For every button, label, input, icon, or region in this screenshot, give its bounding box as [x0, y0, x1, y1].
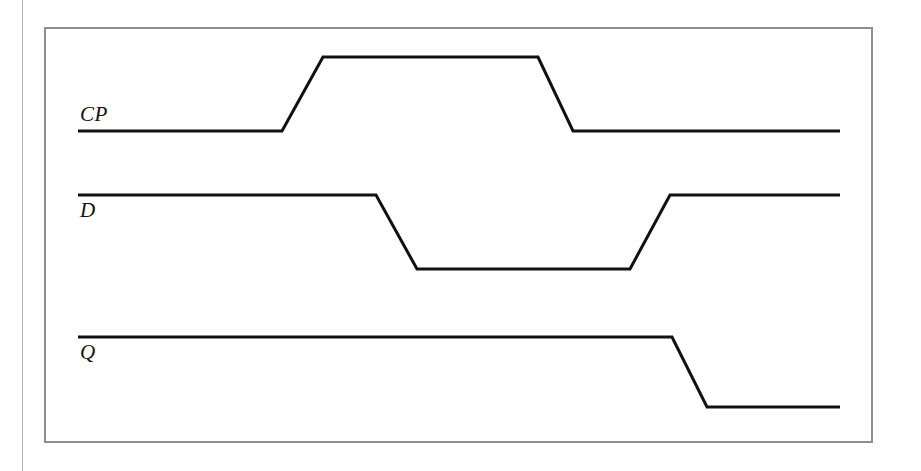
- signal-label-d: D: [80, 200, 96, 221]
- signal-label-cp: CP: [80, 104, 108, 125]
- timing-diagram-figure: CP D Q: [0, 0, 921, 471]
- page-edge-line: [22, 0, 23, 471]
- signal-label-q: Q: [80, 342, 96, 363]
- figure-frame-border: [44, 27, 873, 443]
